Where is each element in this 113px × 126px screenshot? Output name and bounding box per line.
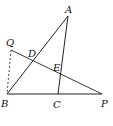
label-E: E (52, 62, 61, 73)
segment-AC (58, 16, 68, 94)
label-B: B (0, 98, 8, 109)
label-C: C (53, 99, 61, 110)
segment-BA (7, 16, 68, 94)
label-P: P (100, 98, 108, 109)
segment-QB-dashed (7, 50, 11, 94)
geometry-diagram: A Q D E B C P (0, 0, 113, 126)
label-Q: Q (6, 37, 14, 48)
label-A: A (64, 4, 72, 15)
label-D: D (27, 48, 36, 59)
